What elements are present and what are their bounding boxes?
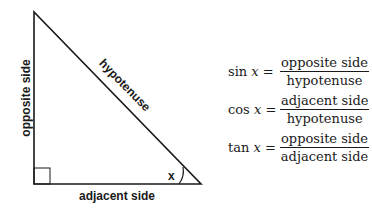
equals-sign: = [265, 102, 276, 117]
denominator: adjacent side [281, 148, 368, 164]
func-name: tan [228, 140, 249, 155]
fraction: opposite side hypotenuse [280, 55, 369, 88]
func-name: sin [228, 64, 247, 79]
adjacent-side-label: adjacent side [79, 189, 155, 203]
sin-formula: sin x = opposite side hypotenuse [228, 52, 369, 90]
denominator: hypotenuse [287, 72, 363, 88]
opposite-side-label: opposite side [19, 59, 33, 137]
equals-sign: = [263, 64, 274, 79]
variable: x [254, 102, 261, 117]
triangle-shape [34, 12, 201, 184]
formula-lhs: tan x = [228, 140, 280, 155]
numerator: opposite side [280, 55, 369, 72]
denominator: hypotenuse [287, 110, 363, 126]
cos-formula: cos x = adjacent side hypotenuse [228, 90, 369, 128]
formula-lhs: cos x = [228, 102, 280, 117]
equals-sign: = [265, 140, 276, 155]
variable: x [251, 64, 258, 79]
angle-label: x [168, 169, 175, 183]
trig-formulas: sin x = opposite side hypotenuse cos x =… [228, 52, 369, 166]
angle-arc [179, 167, 183, 184]
numerator: adjacent side [280, 93, 369, 110]
variable: x [254, 140, 261, 155]
tan-formula: tan x = opposite side adjacent side [228, 128, 369, 166]
fraction: adjacent side hypotenuse [280, 93, 369, 126]
func-name: cos [228, 102, 250, 117]
formula-lhs: sin x = [228, 64, 280, 79]
numerator: opposite side [280, 131, 369, 148]
right-angle-marker [34, 168, 50, 184]
fraction: opposite side adjacent side [280, 131, 369, 164]
